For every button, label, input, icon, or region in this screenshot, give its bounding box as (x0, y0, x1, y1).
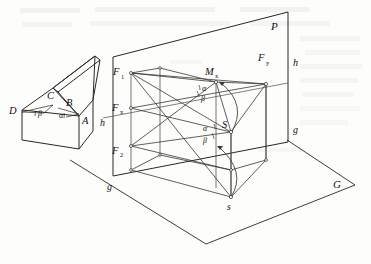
label-ground-left: g (107, 181, 112, 192)
label-beta-upper: β (200, 94, 205, 103)
label-mx-subscript: x (215, 72, 219, 79)
label-fy-subscript: y (266, 59, 270, 66)
label-station-point-ground: s (227, 202, 231, 212)
wedge-object (22, 56, 100, 149)
angle-marks-lower (212, 124, 215, 139)
label-fy-base: F (257, 52, 265, 63)
label-measuring-point: M x (204, 66, 219, 79)
construction-lines (131, 68, 266, 197)
vertex-markers (130, 67, 268, 199)
label-wedge-d: D (8, 105, 17, 116)
label-f2-base: F (111, 145, 119, 156)
figure-canvas: P G h h g g F 1 F x F 2 F y (0, 0, 371, 264)
label-alpha-upper: α (202, 84, 207, 93)
label-plane-g: G (333, 178, 341, 190)
label-f1-base: F (112, 66, 120, 77)
label-f1-subscript: 1 (121, 73, 124, 80)
label-wedge-a: A (81, 115, 89, 126)
label-mx-base: M (204, 66, 215, 77)
label-horizon-right: h (293, 57, 298, 68)
label-fx-base: F (111, 102, 119, 113)
label-alpha-lower: α (203, 124, 208, 133)
label-horizon-left: h (100, 117, 105, 128)
label-f2-subscript: 2 (120, 151, 123, 158)
label-plane-p: P (270, 20, 278, 32)
label-wedge-c: C (47, 90, 55, 101)
label-station-point-upper: S (222, 119, 228, 130)
label-beta-lower: β (202, 136, 207, 145)
angle-marks-upper (197, 85, 200, 97)
label-wedge-b: B (66, 97, 73, 108)
geometry-diagram: P G h h g g F 1 F x F 2 F y (0, 0, 371, 264)
rotation-arcs (217, 82, 238, 197)
label-ground-right: g (293, 124, 298, 135)
label-vanishing-point-f1: F 1 (112, 66, 124, 80)
label-wedge-beta: β (37, 109, 42, 118)
label-vanishing-point-fy: F y (257, 52, 270, 66)
label-wedge-alpha: α (59, 111, 64, 120)
